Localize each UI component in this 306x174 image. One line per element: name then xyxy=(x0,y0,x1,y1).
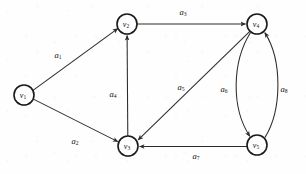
edge-label-a7: a7 xyxy=(192,151,199,162)
node-v4[interactable]: v4 xyxy=(247,14,267,34)
edge-label-a5: a5 xyxy=(177,82,184,93)
edge-a8-v5-to-v4 xyxy=(265,33,278,138)
node-v1[interactable]: v1 xyxy=(14,85,34,105)
edge-label-a6: a6 xyxy=(220,84,227,95)
nodes-layer: v1 v2 v3 v4 v5 xyxy=(14,14,267,156)
edge-a5-v4-to-v3 xyxy=(138,31,250,140)
edge-label-a3: a3 xyxy=(179,7,186,18)
graph-figure: v1 v2 v3 v4 v5 a1 a2 a3 a4 a xyxy=(0,0,306,174)
node-v2[interactable]: v2 xyxy=(117,14,137,34)
node-v3[interactable]: v3 xyxy=(118,136,138,156)
edge-a4-v3-to-v2 xyxy=(127,36,128,136)
edges-layer xyxy=(33,24,278,147)
edge-a6-v4-to-v5 xyxy=(236,33,250,136)
edge-label-a4: a4 xyxy=(109,89,116,100)
edge-label-a2: a2 xyxy=(71,136,78,147)
directed-graph-canvas: v1 v2 v3 v4 v5 a1 a2 a3 a4 a xyxy=(0,0,306,174)
node-v5[interactable]: v5 xyxy=(247,135,267,155)
edge-label-a1: a1 xyxy=(54,50,61,61)
edge-label-a8: a8 xyxy=(280,84,287,95)
edge-a1-v1-to-v2 xyxy=(33,29,118,91)
